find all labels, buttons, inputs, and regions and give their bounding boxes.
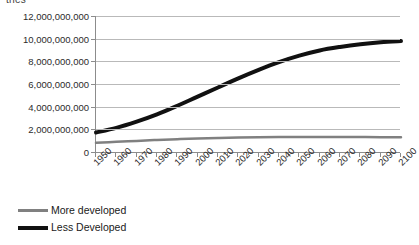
series-line-more-developed: [96, 137, 401, 143]
legend-swatch-icon-less-developed: [18, 226, 48, 230]
series-line-less-developed: [96, 41, 401, 132]
legend-label-more-developed: More developed: [51, 205, 126, 216]
y-axis-tick-label: 0: [0, 147, 89, 158]
legend-swatch-icon-more-developed: [18, 209, 48, 212]
y-axis-tick-label: 10,000,000,000: [0, 33, 89, 44]
gridline: [96, 61, 400, 62]
plot-area: [95, 16, 400, 152]
gridline: [96, 16, 400, 17]
y-axis-tick-label: 12,000,000,000: [0, 11, 89, 22]
y-axis-tick-label: 2,000,000,000: [0, 124, 89, 135]
y-axis-tick-label: 4,000,000,000: [0, 101, 89, 112]
chart-legend: More developed Less Developed: [18, 202, 126, 236]
gridline: [96, 39, 400, 40]
legend-label-less-developed: Less Developed: [51, 222, 126, 233]
gridline: [96, 129, 400, 130]
y-axis-tick-label: 6,000,000,000: [0, 79, 89, 90]
y-axis-tick-label: 8,000,000,000: [0, 56, 89, 67]
legend-item-more-developed: More developed: [18, 202, 126, 219]
legend-item-less-developed: Less Developed: [18, 219, 126, 236]
gridline: [96, 107, 400, 108]
gridline: [96, 84, 400, 85]
